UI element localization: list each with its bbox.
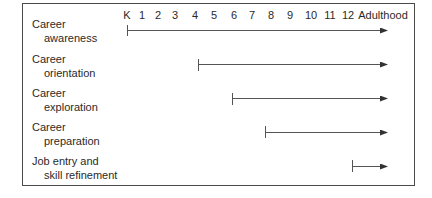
timeline-arrows xyxy=(0,0,432,198)
arrow-career-preparation xyxy=(266,126,388,138)
arrow-career-awareness xyxy=(128,25,388,36)
arrow-career-exploration xyxy=(233,93,388,105)
arrow-career-orientation xyxy=(199,59,388,71)
arrow-job-entry xyxy=(353,160,388,172)
